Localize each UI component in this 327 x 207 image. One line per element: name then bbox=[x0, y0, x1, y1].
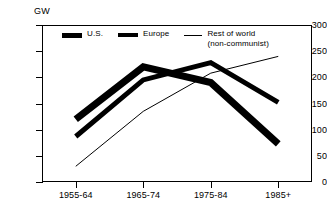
legend-item-rest-of-world: Rest of world (non-communist) bbox=[184, 29, 269, 48]
legend-label-europe: Europe bbox=[143, 29, 169, 39]
legend-swatch-europe-icon bbox=[118, 33, 138, 37]
chart-plot-area bbox=[42, 25, 312, 182]
legend-item-europe: Europe bbox=[118, 29, 169, 39]
x-tick-mark bbox=[211, 182, 212, 188]
y-axis-unit-label: GW bbox=[34, 6, 50, 16]
legend-label-rest-of-world: Rest of world (non-communist) bbox=[207, 29, 269, 48]
legend-label-us: U.S. bbox=[87, 29, 103, 39]
x-tick-label: 1955-64 bbox=[46, 190, 106, 200]
legend-item-us: U.S. bbox=[62, 29, 103, 39]
legend-swatch-us-icon bbox=[62, 33, 82, 38]
x-tick-mark bbox=[76, 182, 77, 188]
x-tick-mark bbox=[143, 182, 144, 188]
chart-legend: U.S. Europe Rest of world (non-communist… bbox=[62, 29, 269, 48]
chart-container: GW 050100150200250300 1955-641965-741975… bbox=[0, 0, 327, 207]
x-tick-label: 1985+ bbox=[248, 190, 308, 200]
x-tick-label: 1975-84 bbox=[181, 190, 241, 200]
x-tick-mark bbox=[278, 182, 279, 188]
y-tick-mark bbox=[36, 182, 43, 183]
series-line-u-s bbox=[76, 67, 279, 144]
x-tick-label: 1965-74 bbox=[113, 190, 173, 200]
legend-swatch-rest-of-world-icon bbox=[184, 35, 202, 36]
